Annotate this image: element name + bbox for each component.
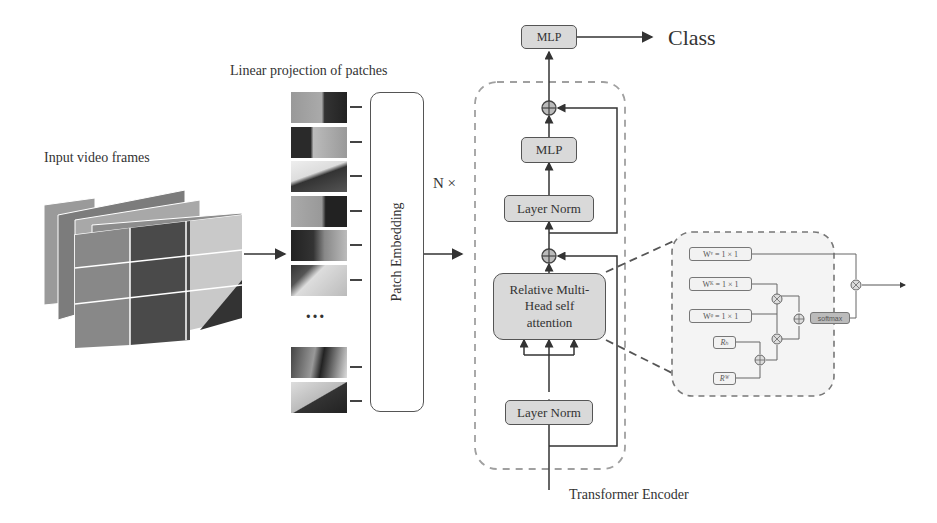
patch-embedding-box: Patch Embedding: [370, 92, 424, 412]
patch-embedding-label: Patch Embedding: [389, 202, 405, 301]
patch-image-1: [291, 92, 347, 123]
patch-image-7: [291, 347, 347, 378]
layer-norm-bottom-box: Layer Norm: [505, 400, 593, 425]
wv-box: Wᵛ = 1 × 1: [689, 247, 752, 261]
patch-image-2: [291, 127, 347, 158]
patch-connector: [350, 106, 362, 108]
patch-connector: [350, 175, 362, 177]
class-label: Class: [668, 25, 716, 51]
mlp-box: MLP: [521, 137, 577, 163]
transformer-encoder-label: Transformer Encoder: [569, 487, 689, 503]
patch-connector: [350, 244, 362, 246]
patch-connector: [350, 279, 362, 281]
attention-box: Relative Multi-Head self attention: [493, 273, 606, 340]
patch-connector: [350, 141, 362, 143]
input-frames-label: Input video frames: [44, 150, 150, 166]
wq-box: Wᵠ = 1 × 1: [689, 309, 752, 323]
patch-connector: [350, 400, 362, 402]
video-frames-stack: [44, 190, 242, 348]
patch-image-4: [291, 196, 347, 227]
patch-image-5: [291, 230, 347, 261]
rw-box: Rᵂ: [713, 372, 736, 385]
patch-connector: [350, 366, 362, 368]
patch-image-3: [291, 161, 347, 192]
mlp-head-box: MLP: [521, 25, 577, 49]
linear-projection-label: Linear projection of patches: [230, 63, 387, 79]
wk-box: Wᴷ = 1 × 1: [689, 277, 752, 291]
n-times-label: N ×: [433, 175, 456, 192]
patch-image-8: [291, 382, 347, 413]
rh-box: Rₕ: [713, 336, 736, 349]
patch-ellipsis: …: [305, 300, 325, 323]
patch-connector: [350, 210, 362, 212]
layer-norm-top-box: Layer Norm: [504, 195, 594, 222]
diagram-connectors: [0, 0, 937, 523]
patch-image-6: [291, 265, 347, 296]
softmax-box: softmax: [810, 312, 850, 324]
